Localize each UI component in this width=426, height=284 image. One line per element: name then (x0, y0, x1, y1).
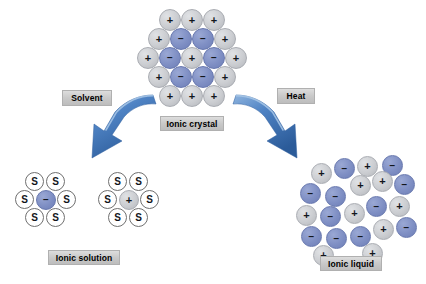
liquid-cation: + (350, 175, 371, 196)
liquid-cation-symbol: + (396, 201, 402, 212)
liquid-cation-symbol: + (364, 161, 370, 172)
liquid-anion-symbol: − (309, 231, 315, 241)
liquid-anion-symbol: − (402, 179, 408, 189)
liquid-anion-symbol: − (404, 222, 410, 232)
liquid-anion-symbol: − (328, 211, 334, 221)
liquid-anion: − (325, 186, 346, 207)
liquid-cation-symbol: + (357, 180, 363, 191)
liquid-anion: − (301, 226, 322, 247)
liquid-cation: + (373, 219, 394, 240)
caption-ionic-liquid: Ionic liquid (320, 256, 382, 271)
liquid-cation: + (311, 163, 332, 184)
liquid-anion: − (396, 217, 417, 238)
liquid-anion: − (334, 158, 355, 179)
liquid-cation-symbol: + (380, 224, 386, 235)
liquid-anion: − (320, 206, 341, 227)
liquid-cation-symbol: + (318, 168, 324, 179)
liquid-anion-symbol: − (390, 160, 396, 170)
ionic-liquid-group: +−+−−−++−+−+−+−−−+−++ Ionic liquid (0, 0, 426, 284)
liquid-cation: + (296, 205, 317, 226)
liquid-anion-symbol: − (334, 233, 340, 243)
liquid-cation-symbol: + (303, 210, 309, 221)
liquid-anion: − (300, 183, 321, 204)
liquid-cation: + (344, 203, 365, 224)
liquid-cation: + (372, 171, 393, 192)
liquid-cation-symbol: + (379, 176, 385, 187)
ionic-crystal-diagram: ++++−−++−+−++−−++++ Ionic crystal Solven… (0, 0, 426, 284)
liquid-anion-symbol: − (374, 201, 380, 211)
liquid-cation: + (389, 196, 410, 217)
liquid-anion-symbol: − (333, 191, 339, 201)
liquid-anion-symbol: − (308, 188, 314, 198)
liquid-anion-symbol: − (342, 163, 348, 173)
liquid-anion-symbol: − (358, 231, 364, 241)
liquid-anion: − (394, 174, 415, 195)
liquid-cation-symbol: + (351, 208, 357, 219)
liquid-anion: − (366, 196, 387, 217)
caption-ionic-liquid-label: Ionic liquid (328, 259, 374, 269)
